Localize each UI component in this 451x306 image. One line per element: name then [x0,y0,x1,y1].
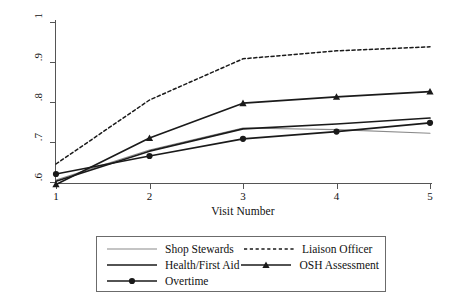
data-point-circle [240,136,246,142]
legend-row: Health/First AidOSH Assessment [105,257,379,273]
compliance-line-chart: Average Compliance 1.9.8.7.6 12345 Visit… [0,0,451,306]
data-point-circle [333,129,339,135]
legend-item-health-first-aid: Health/First Aid [105,258,239,272]
x-axis-title: Visit Number [56,205,430,217]
legend-item-overtime: Overtime [105,274,242,288]
line-triangle-key [239,258,293,272]
legend-label: Health/First Aid [159,259,239,271]
series-line [56,123,430,174]
data-point-circle [146,153,152,159]
legend-key-circle-marker [129,278,135,284]
legend-row: Shop StewardsLiaison Officer [105,241,379,257]
legend-item-shop-stewards: Shop Stewards [105,242,242,256]
legend-row: Overtime [105,273,379,289]
legend-label: Shop Stewards [159,243,234,255]
legend-item-liaison-officer: Liaison Officer [242,242,379,256]
legend-label: OSH Assessment [293,259,379,271]
data-point-circle [53,171,59,177]
legend-grid: Shop StewardsLiaison OfficerHealth/First… [97,237,385,291]
legend-label: Overtime [159,275,208,287]
line-circle-key [105,274,159,288]
line-thin-key [105,242,159,256]
legend-item-osh-assessment: OSH Assessment [239,258,379,272]
legend-label: Liaison Officer [296,243,372,255]
line-thick-key [105,258,159,272]
line-dashed-key [242,242,296,256]
chart-legend: Shop StewardsLiaison OfficerHealth/First… [96,236,386,292]
data-point-circle [427,120,433,126]
